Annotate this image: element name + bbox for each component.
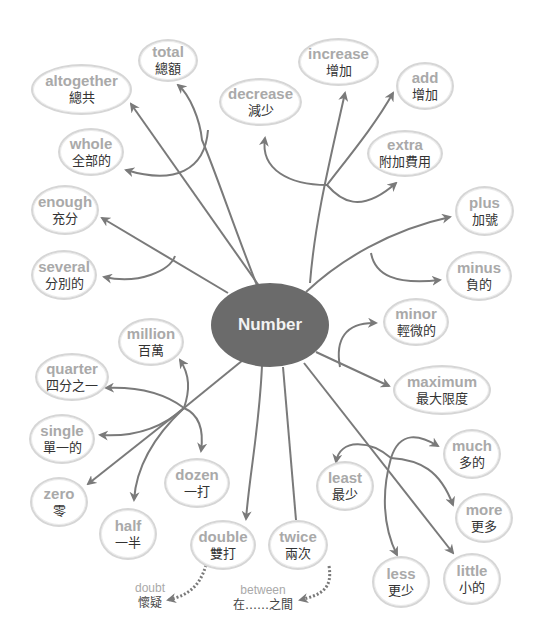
node-add: add增加 (396, 62, 454, 110)
node-whole: whole全部的 (58, 128, 124, 176)
center-node-number: Number (211, 283, 329, 367)
arrow-minor (339, 323, 376, 367)
arrow-extra (327, 183, 396, 202)
node-zero: zero零 (30, 477, 88, 527)
arrow-whole (126, 130, 208, 176)
node-maximum: maximum最大限度 (393, 365, 491, 415)
arrow-much (391, 437, 438, 458)
arrow-increase (310, 93, 345, 283)
node-little: little小的 (443, 553, 501, 605)
node-increase: increase增加 (298, 38, 379, 86)
node-double: double雙打 (190, 520, 256, 570)
arrow-more (391, 458, 453, 505)
node-minus: minus負的 (446, 251, 512, 301)
node-million: million百萬 (118, 318, 184, 366)
arrow-twice (283, 367, 296, 520)
node-total: total總額 (138, 39, 198, 82)
node-several: several分別的 (31, 250, 97, 300)
arrow-quarter (106, 388, 184, 408)
node-more: more更多 (455, 493, 513, 543)
center-label: Number (238, 315, 302, 335)
dotted-arrow-between (300, 566, 330, 600)
node-least: least最少 (316, 461, 374, 511)
arrow-least (336, 444, 391, 462)
arrow-million (180, 360, 188, 408)
node-extra: extra附加費用 (367, 130, 443, 177)
node-less: less更少 (372, 556, 430, 608)
arrow-decrease-add (264, 138, 327, 185)
node-much: much多的 (443, 429, 501, 479)
node-half: half一半 (99, 508, 157, 560)
node-quarter: quarter四分之一 (35, 353, 109, 401)
arrow-altogether (131, 104, 262, 290)
node-altogether: altogether總共 (31, 64, 132, 115)
mind-map-canvas: Number total總額 altogether總共 whole全部的 eno… (0, 0, 545, 639)
node-twice: twice兩次 (268, 520, 328, 570)
node-single: single單一的 (29, 414, 95, 464)
arrow-dozen (184, 408, 202, 451)
label-doubt: doubt懷疑 (128, 582, 172, 611)
node-minor: minor輕微的 (383, 298, 449, 346)
node-decrease: decrease減少 (219, 78, 302, 126)
arrow-enough (102, 218, 228, 293)
dotted-arrow-doubt (168, 565, 206, 600)
arrow-double (246, 366, 262, 519)
arrow-maximum (316, 352, 389, 386)
arrow-several (104, 256, 175, 279)
arrow-trunk-left (184, 360, 243, 408)
node-plus: plus加號 (455, 186, 514, 236)
label-between: between在……之間 (226, 584, 300, 613)
arrow-minus (371, 253, 440, 281)
node-dozen: dozen一打 (164, 458, 230, 508)
node-enough: enough充分 (31, 185, 99, 235)
